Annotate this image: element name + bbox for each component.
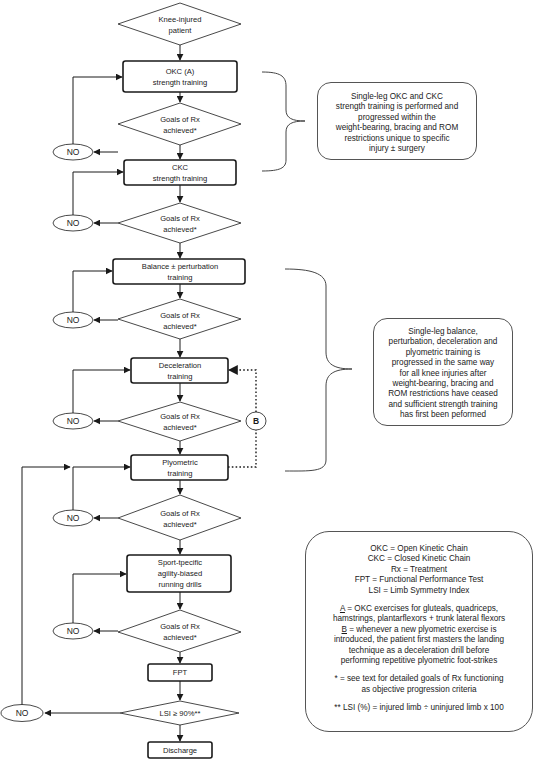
note-neuromuscular-training: Single-leg balance, perturbation, decele… <box>373 318 513 426</box>
decision-2-label: Goals of Rxachieved* <box>160 214 200 234</box>
note-line: progressed within the <box>324 113 470 123</box>
note-line: weight-bearing, bracing and <box>380 379 506 389</box>
note-line: progressed in the same way <box>380 358 506 368</box>
note-line: has first been peformed <box>380 410 506 420</box>
note-line: injury ± surgery <box>324 144 470 154</box>
legend-abbreviation: OKC = Open Kinetic Chain <box>312 544 526 554</box>
legend-b-text: performing repetitive plyometric foot-st… <box>312 656 526 666</box>
legend-b-text: technique as a deceleration drill before <box>312 646 526 656</box>
legend-goals-note: * = see text for detailed goals of Rx fu… <box>312 674 526 684</box>
decision-6 <box>118 610 241 652</box>
legend-abbreviation: Rx = Treatment <box>312 565 526 575</box>
decision-1 <box>118 103 241 145</box>
note-line: Single-leg OKC and CKC <box>324 92 470 102</box>
no-label-lsi: NO <box>16 708 29 718</box>
decision-4-label: Goals of Rxachieved* <box>160 412 200 432</box>
no-label-4: NO <box>67 416 80 426</box>
start-node <box>118 3 241 45</box>
note-line: Single-leg balance, <box>380 327 506 337</box>
step-okc-box <box>123 61 237 92</box>
note-line: perturbation, deceleration and <box>380 337 506 347</box>
legend-b-text: introduced, the patient first masters th… <box>312 635 526 645</box>
brace-neuromuscular <box>285 269 352 471</box>
note-line: and sufficient strength training <box>380 400 506 410</box>
no-label-6: NO <box>67 626 80 636</box>
step-balance-label: Balance ± perturbationtraining <box>142 262 218 282</box>
b-label: B <box>253 416 259 426</box>
legend-goals-note: as objective progression criteria <box>312 685 526 695</box>
note-line: weight-bearing, bracing and ROM <box>324 123 470 133</box>
start-label: Knee-injuredpatient <box>158 15 201 35</box>
step-plyometric-label: Plyometrictraining <box>162 458 198 478</box>
step-deceleration-label: Decelerationtraining <box>159 361 202 381</box>
legend-a-text: = OKC exercises for gluteals, quadriceps… <box>345 604 498 613</box>
decision-2 <box>118 203 241 243</box>
legend-b-text: = whenever a new plyometric exercise is <box>347 625 497 634</box>
decision-5-label: Goals of Rxachieved* <box>160 509 200 529</box>
decision-4 <box>118 402 241 441</box>
note-line: for all knee injuries after <box>380 369 506 379</box>
step-ckc-label: CKCstrength training <box>153 163 207 183</box>
note-strength-training: Single-leg OKC and CKC strength training… <box>317 82 477 160</box>
note-line: strength training is performed and <box>324 102 470 112</box>
note-line: restrictions unique to specific <box>324 134 470 144</box>
legend-b-line: B = whenever a new plyometric exercise i… <box>312 625 526 635</box>
step-okc-label: OKC (A)strength training <box>153 67 207 87</box>
legend-box: OKC = Open Kinetic Chain CKC = Closed Ki… <box>305 531 533 732</box>
legend-abbreviation: FPT = Functional Performance Test <box>312 575 526 585</box>
no-label-2: NO <box>67 218 80 228</box>
note-line: plyometric training is <box>380 348 506 358</box>
note-line: ROM restrictions have ceased <box>380 389 506 399</box>
legend-abbreviation: CKC = Closed Kinetic Chain <box>312 554 526 564</box>
decision-6-label: Goals of Rxachieved* <box>160 622 200 642</box>
legend-a-text: hamstrings, plantarflexors + trunk later… <box>312 614 526 624</box>
decision-3-label: Goals of Rxachieved* <box>160 311 200 331</box>
lsi-decision-label: LSI ≥ 90%** <box>160 709 201 718</box>
decision-1-label: Goals of Rxachieved* <box>160 115 200 135</box>
no-label-5: NO <box>67 513 80 523</box>
step-discharge-label: Discharge <box>163 746 197 755</box>
step-fpt-label: FPT <box>173 668 188 677</box>
brace-strength <box>262 72 305 171</box>
legend-lsi-note: ** LSI (%) = injured limb ÷ uninjured li… <box>312 703 526 713</box>
legend-a-line: A = OKC exercises for gluteals, quadrice… <box>312 604 526 614</box>
no-label-3: NO <box>67 315 80 325</box>
legend-abbreviation: LSI = Limb Symmetry Index <box>312 586 526 596</box>
step-sport-label: Sport-tpecificagility-biasedrunning dril… <box>158 558 203 589</box>
no-label-1: NO <box>67 147 80 157</box>
